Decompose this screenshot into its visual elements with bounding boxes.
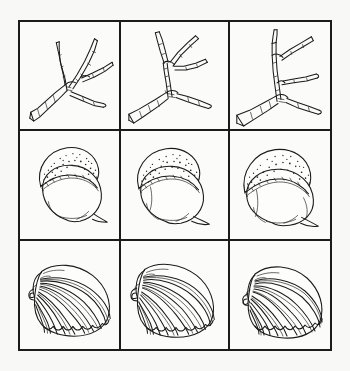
- specimen-grid-frame: Twig view 1: [18, 20, 332, 351]
- specimen-grid: Twig view 1: [20, 22, 330, 349]
- figure-root: Specimen plate: three natural objects in…: [0, 0, 350, 371]
- twig-drawing-3: [230, 22, 330, 129]
- cell-shell-view-1[interactable]: Shell view 1: [20, 241, 121, 349]
- twig-drawing-1: [20, 22, 119, 129]
- acorn-drawing-3: [230, 131, 330, 239]
- cell-shell-view-2[interactable]: Shell view 2: [121, 241, 230, 349]
- shell-drawing-3: [230, 241, 330, 349]
- cell-acorn-view-2[interactable]: Acorn view 2: [121, 131, 230, 241]
- cell-twig-view-2[interactable]: Twig view 2: [121, 22, 230, 131]
- figure-title: Specimen plate: three natural objects in…: [0, 0, 1, 1]
- shell-drawing-2: [121, 241, 228, 349]
- acorn-drawing-1: [20, 131, 119, 239]
- shell-drawing-1: [20, 241, 119, 349]
- cell-twig-view-1[interactable]: Twig view 1: [20, 22, 121, 131]
- cell-acorn-view-1[interactable]: Acorn view 1: [20, 131, 121, 241]
- cell-twig-view-3[interactable]: Twig view 3: [230, 22, 330, 131]
- twig-drawing-2: [121, 22, 228, 129]
- cell-acorn-view-3[interactable]: Acorn view 3: [230, 131, 330, 241]
- acorn-drawing-2: [121, 131, 228, 239]
- cell-shell-view-3[interactable]: Shell view 3: [230, 241, 330, 349]
